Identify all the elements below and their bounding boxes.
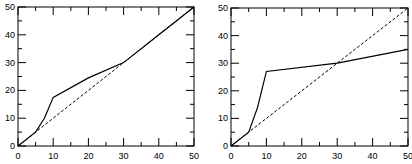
chart-figure: 0102030405001020304050010203040500102030… [0,0,412,164]
y-tick-label: 0 [10,141,15,151]
series-dashed-line [18,7,194,146]
x-tick-label: 30 [332,151,342,161]
x-tick-label: 30 [119,151,129,161]
x-tick-label: 0 [15,151,20,161]
y-tick-label: 40 [218,31,228,41]
series-dashed-line [231,8,408,146]
y-tick-label: 20 [218,86,228,96]
x-tick-label: 10 [261,151,271,161]
x-tick-label: 20 [297,151,307,161]
y-tick-label: 10 [218,113,228,123]
x-tick-label: 10 [48,151,58,161]
y-tick-label: 50 [5,2,15,12]
x-tick-label: 50 [189,151,199,161]
y-tick-label: 10 [5,113,15,123]
y-tick-label: 20 [5,85,15,95]
y-tick-label: 50 [218,3,228,13]
y-tick-label: 30 [5,58,15,68]
x-tick-label: 40 [368,151,378,161]
x-tick-label: 20 [83,151,93,161]
y-tick-label: 0 [223,141,228,151]
y-tick-label: 30 [218,58,228,68]
y-tick-label: 40 [5,30,15,40]
x-tick-label: 40 [154,151,164,161]
x-tick-label: 0 [228,151,233,161]
chart-panel-2: 0102030405001020304050 [218,3,412,161]
x-tick-label: 50 [403,151,412,161]
chart-panel-1: 0102030405001020304050 [5,2,199,161]
series-solid-line [231,49,408,146]
